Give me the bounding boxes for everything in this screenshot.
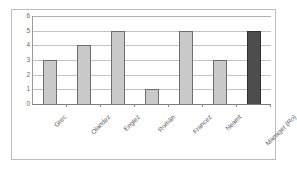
- x-axis-label: Neamt: [225, 114, 243, 132]
- bar-slot: [33, 16, 67, 104]
- x-axis-tick: [270, 104, 271, 107]
- bar-slot: [67, 16, 101, 104]
- bar: [145, 89, 160, 104]
- bar-slot: [237, 16, 271, 104]
- x-axis-tick: [202, 104, 203, 107]
- x-axis-label: Olandez: [90, 114, 112, 136]
- plot-wrapper: 6543210: [22, 16, 270, 111]
- x-axis-tick: [66, 104, 67, 107]
- bar: [247, 31, 262, 104]
- bar: [77, 45, 92, 104]
- bar-slot: [135, 16, 169, 104]
- x-axis-tick: [168, 104, 169, 107]
- bar: [179, 31, 194, 104]
- bar: [213, 60, 228, 104]
- plot-area: 6543210: [32, 16, 271, 105]
- chart-frame: 6543210 GrecOlandezEnglezRomânFrancezNea…: [11, 9, 276, 160]
- y-axis-tick-label: 0: [26, 101, 30, 108]
- y-axis-tick-label: 1: [26, 86, 30, 93]
- bar-slot: [169, 16, 203, 104]
- x-axis-label: Francez: [192, 114, 213, 135]
- bar-slot: [203, 16, 237, 104]
- x-axis-label: Român: [157, 114, 177, 134]
- x-axis-tick: [134, 104, 135, 107]
- bar-slot: [101, 16, 135, 104]
- x-axis-labels: GrecOlandezEnglezRomânFrancezNeamtManage…: [32, 114, 270, 169]
- x-axis-tick: [100, 104, 101, 107]
- y-axis-tick-label: 6: [26, 13, 30, 20]
- y-axis-tick-label: 4: [26, 42, 30, 49]
- bar: [43, 60, 58, 104]
- bar: [111, 31, 126, 104]
- x-axis-tick: [236, 104, 237, 107]
- bar-series: [33, 16, 271, 104]
- x-axis-label: Grec: [53, 114, 68, 129]
- y-axis-tick-label: 2: [26, 71, 30, 78]
- x-axis-label: Englez: [123, 114, 142, 133]
- y-axis-tick-label: 3: [26, 57, 30, 64]
- y-axis-tick-label: 5: [26, 27, 30, 34]
- x-axis-label: Manager (Ro): [265, 114, 289, 147]
